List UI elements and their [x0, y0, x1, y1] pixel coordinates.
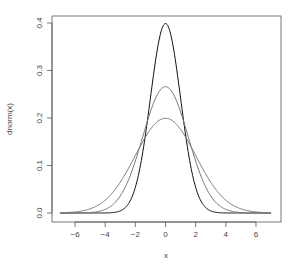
y-tick-label: 0.4	[35, 17, 44, 29]
plot-frame	[52, 16, 281, 222]
y-axis-title: dnorm(x)	[5, 103, 14, 135]
y-tick-label: 0.3	[35, 64, 44, 76]
x-tick-label: 6	[254, 230, 259, 239]
y-tick-label: 0.1	[35, 159, 44, 171]
x-tick-label: −6	[70, 230, 80, 239]
x-tick-label: 0	[163, 230, 168, 239]
density-curve-sd-1-5	[60, 87, 271, 213]
x-tick-label: 2	[193, 230, 198, 239]
x-tick-label: 4	[224, 230, 229, 239]
x-axis: −6−4−20246	[70, 222, 258, 239]
y-axis: 0.00.10.20.30.4	[35, 17, 52, 219]
x-tick-label: −2	[131, 230, 141, 239]
y-tick-label: 0.0	[35, 207, 44, 219]
x-tick-label: −4	[101, 230, 111, 239]
x-axis-title: x	[164, 251, 168, 260]
y-tick-label: 0.2	[35, 112, 44, 124]
curves	[60, 24, 271, 214]
density-curve-sd-2	[60, 118, 271, 213]
density-plot: −6−4−20246 0.00.10.20.30.4 x dnorm(x)	[0, 0, 294, 268]
